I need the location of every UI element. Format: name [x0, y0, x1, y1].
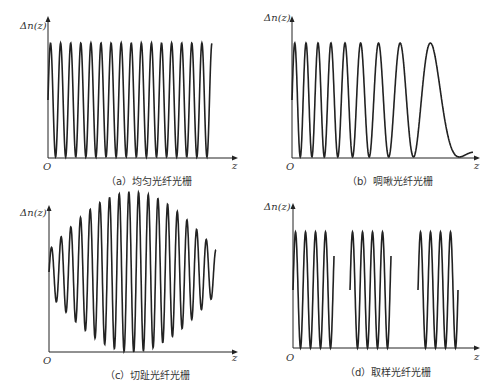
panel-d-ylabel: Δn(z)	[264, 201, 291, 212]
panel-c-xlabel: z	[232, 352, 237, 363]
panel-d-y-arrow-icon	[291, 203, 296, 209]
panel-d-sampled-segment-2	[350, 232, 391, 348]
panel-c-apodized-curve	[49, 192, 216, 352]
panel-d-caption: （d）取样光纤光栅	[345, 364, 431, 379]
panel-b-origin: O	[286, 161, 294, 172]
panel-c-origin: O	[43, 355, 51, 366]
grating-diagrams	[0, 0, 502, 389]
panel-c-caption: （c）切趾光纤光栅	[105, 367, 191, 382]
panel-b-chirped-curve	[292, 43, 473, 157]
panel-d-sampled-segment-1	[293, 232, 334, 348]
panel-d-xlabel: z	[474, 351, 479, 362]
panel-a-caption: （a）均匀光纤光栅	[106, 173, 192, 188]
panel-a-origin: O	[43, 161, 51, 172]
panel-a-xlabel: z	[232, 160, 237, 171]
panel-c-y-arrow-icon	[47, 205, 52, 211]
panel-b-caption: （b）啁啾光纤光栅	[347, 173, 433, 188]
panel-d-x-arrow-icon	[474, 346, 480, 351]
panel-a-uniform-curve	[48, 43, 212, 157]
panel-d-origin: O	[286, 352, 294, 363]
panel-d-sampled-segment-3	[418, 232, 458, 348]
panel-b-xlabel: z	[474, 160, 479, 171]
panel-a-ylabel: Δn(z)	[20, 20, 47, 31]
panel-c-ylabel: Δn(z)	[20, 207, 47, 218]
panel-b-ylabel: Δn(z)	[264, 12, 291, 23]
